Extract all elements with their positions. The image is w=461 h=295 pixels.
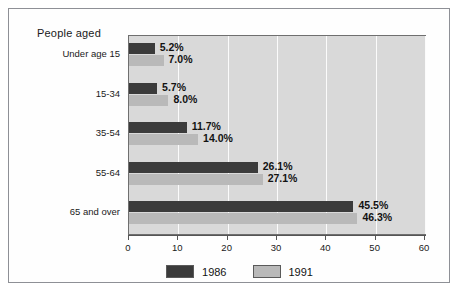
chart-category-row: 15-345.7%8.0% xyxy=(129,76,425,116)
bar-value-label: 45.5% xyxy=(358,200,388,211)
bar-value-label: 7.0% xyxy=(169,54,193,65)
category-axis-label: 35-54 xyxy=(96,127,120,138)
category-axis-label: 15-34 xyxy=(96,88,120,99)
plot-area: Under age 155.2%7.0%15-345.7%8.0%35-5411… xyxy=(128,35,426,235)
category-axis-label: 55-64 xyxy=(96,167,120,178)
bar-1991[interactable] xyxy=(129,213,357,224)
bar-1986[interactable] xyxy=(129,162,258,173)
bar-1986[interactable] xyxy=(129,201,353,212)
bar-1991[interactable] xyxy=(129,174,263,185)
bar-1986[interactable] xyxy=(129,83,157,94)
bar-value-label: 27.1% xyxy=(268,173,298,184)
category-axis-label: 65 and over xyxy=(70,206,120,217)
x-axis-tick-label: 20 xyxy=(221,242,232,253)
chart-category-row: 65 and over45.5%46.3% xyxy=(129,194,425,234)
x-axis-tick-label: 10 xyxy=(172,242,183,253)
bar-value-label: 46.3% xyxy=(362,212,392,223)
bar-1986[interactable] xyxy=(129,122,187,133)
legend-item-1991[interactable]: 1991 xyxy=(253,265,313,278)
bar-value-label: 8.0% xyxy=(173,94,197,105)
bar-value-label: 14.0% xyxy=(203,133,233,144)
x-axis-tick xyxy=(177,235,178,240)
chart-title: People aged xyxy=(37,27,101,39)
bar-value-label: 5.7% xyxy=(162,82,186,93)
bar-1991[interactable] xyxy=(129,55,164,66)
x-axis-tick-label: 50 xyxy=(369,242,380,253)
x-axis-tick xyxy=(375,235,376,240)
legend-label: 1991 xyxy=(289,266,313,278)
x-axis-tick xyxy=(128,235,129,240)
bar-value-label: 26.1% xyxy=(263,161,293,172)
figure-frame: People aged Under age 155.2%7.0%15-345.7… xyxy=(8,8,450,283)
bar-1991[interactable] xyxy=(129,95,168,106)
x-axis-tick-label: 0 xyxy=(125,242,130,253)
gridline xyxy=(425,36,426,234)
category-axis-label: Under age 15 xyxy=(62,48,120,59)
x-axis-tick-label: 30 xyxy=(271,242,282,253)
legend-swatch xyxy=(253,265,281,278)
x-axis-tick xyxy=(325,235,326,240)
chart-category-row: Under age 155.2%7.0% xyxy=(129,36,425,76)
x-axis-tick xyxy=(424,235,425,240)
x-axis: 0102030405060 xyxy=(128,235,426,236)
legend-item-1986[interactable]: 1986 xyxy=(166,265,226,278)
chart-category-row: 35-5411.7%14.0% xyxy=(129,115,425,155)
chart-category-row: 55-6426.1%27.1% xyxy=(129,155,425,195)
x-axis-tick-label: 40 xyxy=(320,242,331,253)
legend-swatch xyxy=(166,265,194,278)
x-axis-tick xyxy=(227,235,228,240)
x-axis-tick-label: 60 xyxy=(419,242,430,253)
bar-1986[interactable] xyxy=(129,43,155,54)
x-axis-tick xyxy=(276,235,277,240)
bar-value-label: 5.2% xyxy=(160,42,184,53)
legend-label: 1986 xyxy=(202,266,226,278)
chart-legend: 19861991 xyxy=(9,265,461,278)
bar-value-label: 11.7% xyxy=(192,121,221,132)
bar-1991[interactable] xyxy=(129,134,198,145)
plot-inner: Under age 155.2%7.0%15-345.7%8.0%35-5411… xyxy=(129,36,425,234)
